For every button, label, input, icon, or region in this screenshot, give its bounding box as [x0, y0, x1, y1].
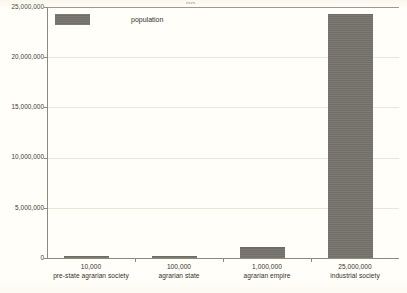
y-tick-mark-20000000	[44, 57, 48, 58]
bar-3	[328, 14, 373, 258]
x-axis-label-2-name: agrarian empire	[223, 272, 311, 281]
y-axis-labels: 05,000,00010,000,00015,000,00020,000,000…	[0, 0, 44, 293]
x-axis-label-3-name: industrial society	[311, 272, 399, 281]
x-tick-mark-1	[135, 258, 136, 262]
x-axis-label-3-value: 25,000,000	[311, 263, 399, 272]
x-axis-label-0-name: pre-state agrarian society	[47, 272, 135, 281]
x-axis-label-1-value: 100,000	[135, 263, 223, 272]
y-tick-mark-15000000	[44, 107, 48, 108]
y-tick-label-0: 0	[0, 255, 44, 261]
y-tick-mark-5000000	[44, 208, 48, 209]
legend-swatch-population	[55, 14, 90, 25]
y-tick-mark-0	[44, 258, 48, 259]
legend: population	[55, 14, 163, 25]
x-axis-label-0-value: 10,000	[47, 263, 135, 272]
bar-2	[240, 247, 285, 258]
bar-1	[152, 256, 197, 259]
x-axis-label-2-value: 1,000,000	[223, 263, 311, 272]
y-tick-label-25000000: 25,000,000	[0, 4, 44, 10]
y-tick-label-15000000: 15,000,000	[0, 104, 44, 110]
x-axis-label-1: 100,000agrarian state	[135, 263, 223, 280]
y-axis-line	[47, 7, 48, 259]
y-tick-mark-10000000	[44, 158, 48, 159]
x-axis-label-1-name: agrarian state	[135, 272, 223, 281]
chart-page: pp 05,000,00010,000,00015,000,00020,000,…	[0, 0, 407, 293]
bar-0	[64, 256, 109, 259]
x-axis-labels: 10,000pre-state agrarian society100,000a…	[47, 263, 399, 293]
y-tick-label-10000000: 10,000,000	[0, 154, 44, 160]
x-axis-label-2: 1,000,000agrarian empire	[223, 263, 311, 280]
x-axis-label-3: 25,000,000industrial society	[311, 263, 399, 280]
plot-area	[47, 7, 399, 258]
y-tick-label-20000000: 20,000,000	[0, 54, 44, 60]
cropped-title-text: pp	[186, 0, 232, 4]
x-tick-mark-3	[311, 258, 312, 262]
x-axis-label-0: 10,000pre-state agrarian society	[47, 263, 135, 280]
legend-label-population: population	[131, 16, 163, 23]
y-tick-mark-25000000	[44, 7, 48, 8]
x-tick-mark-2	[223, 258, 224, 262]
y-tick-label-5000000: 5,000,000	[0, 205, 44, 211]
gridline-25000000	[47, 7, 399, 8]
